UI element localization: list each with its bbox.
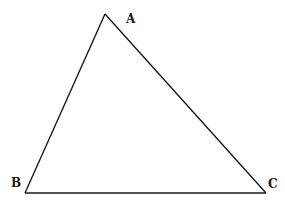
side-ab: [25, 14, 105, 193]
vertex-label-c: C: [268, 177, 278, 191]
side-ac: [105, 14, 266, 193]
vertex-label-b: B: [11, 176, 21, 190]
triangle-diagram: A B C: [0, 0, 285, 203]
vertex-label-a: A: [125, 12, 136, 26]
